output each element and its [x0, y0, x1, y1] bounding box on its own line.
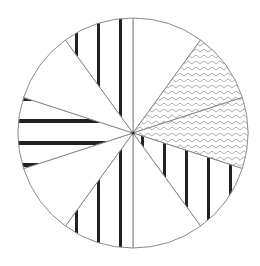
pie-center-dot: [132, 132, 135, 135]
pie-slices: [18, 18, 248, 248]
pie-chart: [0, 0, 260, 266]
